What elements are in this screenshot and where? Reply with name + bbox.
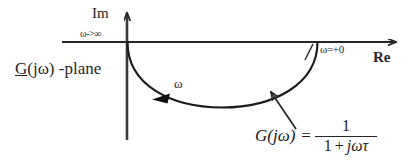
imaginary-axis-label: Im [92,6,109,21]
equation-denominator-plus: + [335,137,344,154]
real-axis-label: Re [373,50,391,65]
transfer-function-equation: G(jω) = 1 1+jωτ [255,118,377,155]
omega-infinity-annotation: ω->∞ [80,29,101,39]
omega-direction-annotation: ω [174,77,183,90]
equation-denominator-one: 1 [324,137,332,154]
omega-zero-leader-line [305,44,313,60]
equation-lhs: G(jω) [255,126,295,146]
omega-zero-annotation: ω=+0 [320,44,344,55]
plane-caption: G(jω) -plane [15,60,101,77]
equation-fraction: 1 1+jωτ [315,118,377,155]
equation-denominator: 1+jωτ [320,137,373,155]
nyquist-plot-figure: Im Re ω->∞ ω=+0 ω G(jω) -plane G(jω) = 1… [0,0,413,164]
equation-numerator: 1 [336,118,356,136]
plane-caption-underlined: G [15,59,27,78]
equation-denominator-term: jωτ [347,137,368,154]
nyquist-locus-curve [128,42,318,108]
plane-caption-rest: (jω) -plane [27,59,101,78]
equation-equals-sign: = [301,126,311,146]
